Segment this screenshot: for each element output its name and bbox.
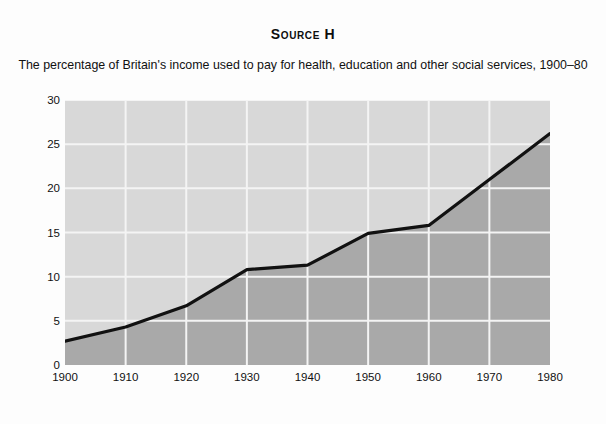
plot-area-wrapper [65, 100, 550, 365]
x-axis-tick-labels: 190019101920193019401950196019701980 [65, 371, 550, 391]
x-tick-label: 1930 [217, 371, 277, 383]
plot-area [65, 100, 550, 365]
y-tick-label: 25 [26, 138, 60, 150]
y-tick-label: 30 [26, 94, 60, 106]
x-tick-label: 1940 [278, 371, 338, 383]
y-tick-label: 0 [26, 359, 60, 371]
y-tick-label: 20 [26, 182, 60, 194]
x-tick-label: 1900 [35, 371, 95, 383]
y-axis-tick-labels: 051015202530 [20, 100, 60, 365]
figure-title: Source H [0, 26, 606, 42]
x-tick-label: 1950 [338, 371, 398, 383]
figure-subtitle: The percentage of Britain's income used … [0, 58, 606, 72]
x-tick-label: 1970 [459, 371, 519, 383]
x-tick-label: 1920 [156, 371, 216, 383]
x-tick-label: 1980 [520, 371, 580, 383]
y-tick-label: 5 [26, 315, 60, 327]
y-tick-label: 15 [26, 227, 60, 239]
area-chart-svg [65, 100, 550, 365]
x-tick-label: 1960 [399, 371, 459, 383]
x-tick-label: 1910 [96, 371, 156, 383]
source-h-figure: Source H The percentage of Britain's inc… [0, 0, 606, 424]
y-tick-label: 10 [26, 271, 60, 283]
